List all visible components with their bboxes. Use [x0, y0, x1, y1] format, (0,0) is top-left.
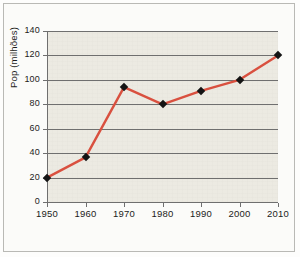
series-line: [47, 55, 278, 177]
line-chart: 0204060801001201401950196019701980199020…: [0, 0, 300, 257]
data-series: [0, 0, 300, 257]
chart-screenshot: 0204060801001201401950196019701980199020…: [0, 0, 300, 257]
